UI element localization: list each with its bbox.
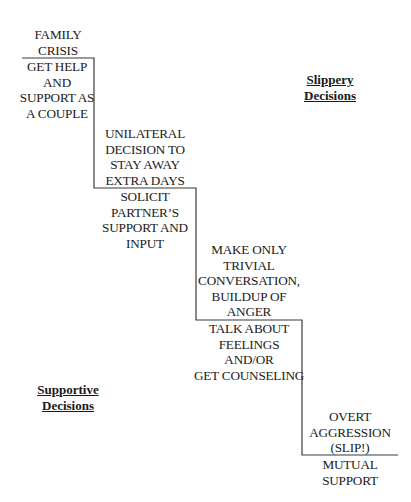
step-1-supportive-label: GET HELP AND SUPPORT AS A COUPLE bbox=[18, 59, 96, 121]
step-3-slippery-label: MAKE ONLY TRIVIAL CONVERSATION, BUILDUP … bbox=[196, 242, 302, 320]
step-4-supportive-label: MUTUAL SUPPORT bbox=[300, 457, 400, 488]
step-4-slippery-label: OVERT AGGRESSION (SLIP!) bbox=[302, 409, 398, 456]
step-2-supportive-label: SOLICIT PARTNER’S SUPPORT AND INPUT bbox=[92, 189, 198, 251]
slippery-decisions-heading: Slippery Decisions bbox=[290, 72, 370, 104]
step-3-supportive-label: TALK ABOUT FEELINGS AND/OR GET COUNSELIN… bbox=[193, 321, 305, 383]
supportive-decisions-heading: Supportive Decisions bbox=[22, 382, 114, 414]
step-1-slippery-label: FAMILY CRISIS bbox=[22, 27, 94, 58]
step-2-slippery-label: UNILATERAL DECISION TO STAY AWAY EXTRA D… bbox=[95, 126, 195, 188]
